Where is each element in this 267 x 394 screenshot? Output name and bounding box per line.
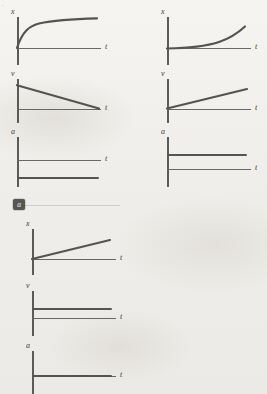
panel-a: x t v t a xyxy=(0,0,133,190)
position-curve xyxy=(167,24,253,54)
axis-label-v: v xyxy=(161,70,165,78)
velocity-line xyxy=(32,308,112,310)
panel-c-acceleration-graph: a t xyxy=(133,128,267,186)
axis-label-t: t xyxy=(105,155,107,163)
velocity-line xyxy=(167,86,253,114)
axis-label-v: v xyxy=(26,282,30,290)
axis-label-t: t xyxy=(120,254,122,262)
panel-a-badge: a xyxy=(13,199,25,210)
position-line xyxy=(32,236,118,264)
y-axis xyxy=(17,137,19,187)
y-axis xyxy=(32,351,34,394)
axis-label-x: x xyxy=(161,8,165,16)
panel-c: x t v t a xyxy=(133,0,267,190)
panel-bottom-velocity-graph: v t xyxy=(0,280,140,336)
axis-label-t: t xyxy=(105,43,107,51)
velocity-line xyxy=(17,83,103,113)
panel-a-position-graph: x t xyxy=(0,8,133,68)
acceleration-line xyxy=(167,154,247,156)
panel-bottom-acceleration-graph: a t xyxy=(0,340,140,394)
axis-label-t: t xyxy=(255,104,257,112)
t-axis xyxy=(32,318,116,319)
axis-label-v: v xyxy=(11,70,15,78)
y-axis xyxy=(167,137,169,187)
axis-label-t: t xyxy=(105,104,107,112)
axis-label-a: a xyxy=(11,128,15,136)
panel-c-position-graph: x t xyxy=(133,8,267,68)
axis-label-a: a xyxy=(26,342,30,350)
axis-label-t: t xyxy=(255,164,257,172)
acceleration-line xyxy=(17,177,99,179)
panel-c-velocity-graph: v t xyxy=(133,70,267,125)
t-axis xyxy=(17,160,101,161)
axis-label-a: a xyxy=(161,128,165,136)
t-axis xyxy=(167,169,251,170)
panel-a-velocity-graph: v t xyxy=(0,70,133,125)
y-axis xyxy=(32,291,34,336)
panel-bottom: x t v t a t xyxy=(0,218,140,394)
figure-page: . x t v t xyxy=(0,0,267,394)
acceleration-line xyxy=(32,375,112,377)
position-curve xyxy=(17,16,103,52)
panel-a-separator xyxy=(14,205,120,206)
axis-label-t: t xyxy=(255,43,257,51)
axis-label-x: x xyxy=(11,8,15,16)
axis-label-t: t xyxy=(120,313,122,321)
panel-bottom-position-graph: x t xyxy=(0,218,140,276)
axis-label-t: t xyxy=(120,371,122,379)
axis-label-x: x xyxy=(26,220,30,228)
panel-a-acceleration-graph: a t xyxy=(0,128,133,186)
